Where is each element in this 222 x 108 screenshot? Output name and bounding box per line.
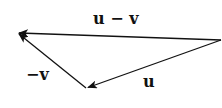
label-u: u xyxy=(143,74,155,90)
label-neg-v: −v xyxy=(26,67,49,83)
vector-u-minus-v-arrow xyxy=(19,33,221,40)
label-u-minus-v: u − v xyxy=(93,11,138,27)
